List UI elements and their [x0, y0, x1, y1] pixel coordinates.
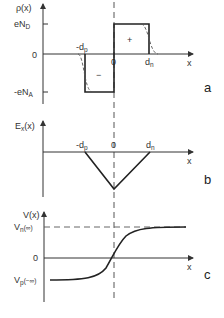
tick-minus-dp: -dp [76, 140, 88, 152]
y-axis-label: V(x) [23, 210, 40, 220]
x-axis-label: x [187, 156, 192, 166]
x-axis-label: x [187, 58, 192, 68]
tick-zero: 0 [32, 50, 37, 60]
panel-label-b: b [204, 172, 211, 187]
x-axis-label: x [187, 262, 192, 272]
tick-eNA: -eNA [14, 87, 34, 98]
tick-dn: dn [146, 140, 155, 151]
panel-b-electric-field: Ex(x) -dp 0 dn x b [15, 121, 211, 197]
tick-vp-minus-infinity: Vp(−∞) [14, 275, 36, 287]
panel-c-potential: V(x) Vn(∞) 0 Vp(−∞) x c [14, 210, 211, 302]
tick-dn: dn [145, 57, 154, 68]
panel-label-c: c [204, 267, 211, 282]
potential-curve [50, 227, 186, 280]
pn-junction-diagram: ρ(x) eND 0 -eNA -dp 0 dn x − + a Ex(x) -… [0, 0, 224, 318]
y-axis-label: Ex(x) [15, 121, 35, 132]
tick-zero: 0 [33, 253, 38, 263]
panel-label-a: a [204, 80, 212, 95]
positive-region-sign: + [127, 35, 132, 45]
tick-minus-dp: -dp [76, 42, 88, 54]
panel-a-charge-density: ρ(x) eND 0 -eNA -dp 0 dn x − + a [14, 3, 212, 104]
field-profile-curve [85, 152, 150, 189]
y-axis-label: ρ(x) [16, 3, 32, 13]
negative-region-sign: − [96, 70, 101, 80]
tick-vn-infinity: Vn(∞) [14, 222, 33, 233]
tick-origin: 0 [111, 140, 116, 150]
tick-eND: eND [14, 19, 31, 30]
